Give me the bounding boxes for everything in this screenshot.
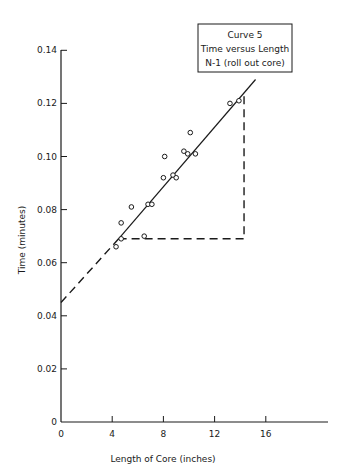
data-point [161, 175, 166, 180]
chart: 00.020.040.060.080.100.120.14 0481216 Le… [0, 0, 348, 474]
x-tick-label: 0 [58, 429, 64, 439]
data-point [174, 175, 179, 180]
y-tick-label: 0.04 [37, 311, 57, 321]
data-point [114, 244, 119, 249]
data-point [150, 202, 155, 207]
data-point [228, 101, 233, 106]
data-point [142, 234, 147, 239]
data-point [193, 152, 198, 157]
data-point [185, 152, 190, 157]
legend-line-3: N-1 (roll out core) [205, 58, 285, 68]
x-ticks: 0481216 [58, 416, 272, 439]
data-point [129, 205, 134, 210]
x-tick-label: 12 [209, 429, 220, 439]
x-axis-title: Length of Core (inches) [110, 454, 215, 464]
y-ticks: 00.020.040.060.080.100.120.14 [37, 45, 67, 427]
data-points [114, 98, 241, 249]
data-point [162, 154, 167, 159]
legend-line-2: Time versus Length [200, 44, 289, 54]
y-tick-label: 0.12 [37, 98, 57, 108]
y-tick-label: 0.14 [37, 45, 57, 55]
data-point [188, 130, 193, 135]
x-tick-label: 8 [161, 429, 167, 439]
y-tick-label: 0.02 [37, 364, 57, 374]
data-point [119, 221, 124, 226]
data-point [237, 98, 242, 103]
data-point [119, 237, 124, 242]
legend-box: Curve 5 Time versus Length N-1 (roll out… [198, 24, 292, 72]
y-tick-label: 0.06 [37, 258, 57, 268]
y-tick-label: 0.10 [37, 152, 57, 162]
axes [61, 50, 328, 422]
dashed-line [61, 239, 119, 303]
x-tick-label: 4 [109, 429, 115, 439]
legend-line-1: Curve 5 [227, 30, 262, 40]
x-tick-label: 16 [260, 429, 272, 439]
fit-line [119, 80, 256, 239]
plot-lines [61, 80, 256, 303]
y-tick-label: 0.08 [37, 205, 57, 215]
y-axis-title: Time (minutes) [17, 206, 27, 275]
y-tick-label: 0 [51, 417, 57, 427]
